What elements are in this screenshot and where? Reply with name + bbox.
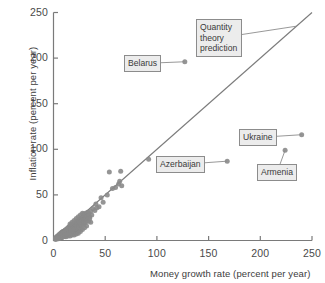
y-tick-label: 250 (10, 6, 48, 18)
annotation-ukraine[interactable]: Ukraine (239, 129, 277, 146)
x-tick-label: 150 (189, 247, 229, 259)
x-axis-title: Money growth rate (percent per year) (150, 268, 310, 279)
x-tick-label: 0 (34, 247, 74, 259)
annotation-azerbaijan[interactable]: Azerbaijan (156, 156, 205, 173)
annotation-quantity-theory-prediction[interactable]: Quantity theory prediction (196, 19, 242, 57)
x-tick-label: 100 (137, 247, 177, 259)
x-tick-label: 200 (240, 247, 280, 259)
x-tick-label: 250 (292, 247, 325, 259)
y-tick-label: 0 (10, 234, 48, 246)
annotation-armenia[interactable]: Armenia (257, 164, 297, 181)
annotation-belarus[interactable]: Belarus (124, 55, 161, 72)
y-axis-title: Inflation rate (percent per year) (27, 34, 38, 194)
chart-figure: 050100150200250050100150200250 Inflation… (0, 0, 325, 283)
data-point-group (53, 59, 304, 242)
x-tick-label: 50 (85, 247, 125, 259)
